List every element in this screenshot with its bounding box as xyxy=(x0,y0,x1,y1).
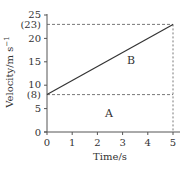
y-tick-label-15: 15 xyxy=(28,56,41,67)
x-axis-title: Time/s xyxy=(93,151,127,162)
x-tick-label-3: 3 xyxy=(119,137,125,148)
y-tick-label-25: 25 xyxy=(28,9,41,20)
y-tick-label-8-annotation: (8) xyxy=(27,89,41,100)
velocity-line xyxy=(47,24,173,94)
region-label-b: B xyxy=(127,54,135,67)
y-tick-label-23-annotation: (23) xyxy=(20,19,41,30)
y-axis-title-superscript: −1 xyxy=(3,36,11,46)
x-tick-label-5: 5 xyxy=(170,137,176,148)
y-tick-label-5: 5 xyxy=(35,103,41,114)
velocity-time-chart: 0 5 10 (8) 15 20 (23) 25 0 1 2 3 4 5 Tim… xyxy=(0,0,188,169)
region-label-a: A xyxy=(104,107,114,120)
y-tick-label-0: 0 xyxy=(35,127,41,138)
x-tick-label-2: 2 xyxy=(94,137,100,148)
y-tick-label-20: 20 xyxy=(28,33,41,44)
y-axis-title: Velocity/m s−1 xyxy=(3,36,15,108)
x-tick-label-0: 0 xyxy=(44,137,50,148)
x-tick-label-4: 4 xyxy=(145,137,151,148)
x-tick-label-1: 1 xyxy=(69,137,75,148)
